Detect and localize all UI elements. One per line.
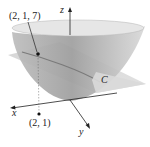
- diagram-canvas: (2, 1, 7) z C x (2, 1) y: [0, 0, 150, 147]
- z-axis-label: z: [60, 5, 64, 15]
- curve-c-label: C: [101, 75, 108, 85]
- projection-point-dot: [37, 112, 40, 115]
- paraboloid-surface: [12, 26, 145, 101]
- y-axis-label: y: [79, 127, 83, 137]
- surface-point-dot: [36, 52, 40, 56]
- projection-point-label: (2, 1): [29, 118, 51, 128]
- z-axis-arrow-icon: [68, 7, 72, 12]
- x-axis-label: x: [12, 108, 16, 118]
- paraboloid-plane-figure: [0, 0, 150, 147]
- surface-point-label: (2, 1, 7): [9, 11, 41, 21]
- y-axis: [70, 100, 89, 127]
- y-axis-arrow-icon: [86, 123, 91, 129]
